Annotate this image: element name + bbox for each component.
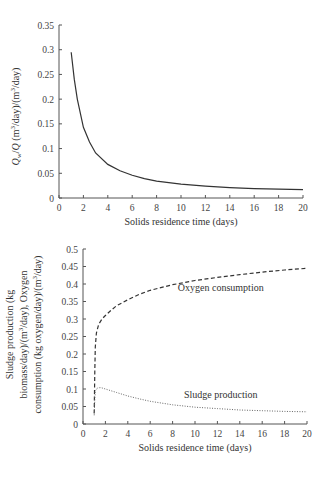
y-tick-label: 0.05 [37, 169, 54, 179]
y-tick-label: 0.4 [66, 280, 78, 290]
x-tick-label: 18 [280, 429, 290, 439]
y-tick-label: 0.1 [42, 144, 54, 154]
y-tick-label: 0.15 [37, 119, 54, 129]
y-tick-label: 0 [73, 420, 78, 430]
x-tick-label: 0 [81, 429, 86, 439]
x-tick-label: 4 [105, 203, 110, 213]
x-tick-label: 16 [249, 203, 259, 213]
y-axis-title-line: Sludge production (kg [4, 290, 16, 379]
annotation-sludge-production: Sludge production [184, 389, 258, 400]
x-tick-label: 2 [81, 203, 86, 213]
x-tick-label: 0 [57, 203, 62, 213]
y-tick-label: 0.2 [42, 95, 54, 105]
y-tick-label: 0.25 [37, 70, 54, 80]
x-axis-title: Solids residence time (days) [138, 442, 251, 454]
y-tick-label: 0.3 [66, 315, 78, 325]
chart-top-qw-q: 0246810121416182000.050.10.150.20.250.30… [9, 21, 308, 229]
x-tick-label: 14 [225, 203, 235, 213]
chart-bottom-sludge-oxygen: 0246810121416182000.050.10.150.20.250.30… [4, 245, 312, 455]
y-tick-label: 0.15 [61, 367, 78, 377]
y-tick-label: 0.1 [66, 385, 78, 395]
y-tick-label: 0.5 [66, 245, 78, 255]
x-tick-label: 14 [235, 429, 245, 439]
x-tick-label: 10 [190, 429, 200, 439]
x-tick-label: 16 [257, 429, 267, 439]
y-tick-label: 0.05 [61, 402, 78, 412]
y-tick-label: 0.45 [61, 262, 78, 272]
y-axis-title-line: consumption (kg oxygen/day)/(m3/day) [31, 256, 44, 414]
x-tick-label: 20 [298, 203, 308, 213]
y-tick-label: 0.25 [61, 332, 78, 342]
x-tick-label: 6 [148, 429, 153, 439]
y-tick-label: 0 [49, 194, 54, 204]
figure: 0246810121416182000.050.10.150.20.250.30… [0, 0, 328, 478]
series-qw-q [71, 52, 303, 189]
y-tick-label: 0.35 [61, 297, 78, 307]
x-tick-label: 4 [125, 429, 130, 439]
y-tick-label: 0.35 [37, 21, 54, 31]
x-axis-title: Solids residence time (days) [124, 216, 237, 228]
x-tick-label: 12 [201, 203, 211, 213]
annotation-oxygen-consumption: Oxygen consumption [178, 282, 264, 293]
y-tick-label: 0.2 [66, 350, 78, 360]
x-tick-label: 8 [154, 203, 159, 213]
x-tick-label: 20 [302, 429, 312, 439]
y-axis-title: Qw/Q (m3/day)/(m3/day) [9, 68, 23, 166]
y-axis-title-line: biomass/day)/(m3/day), Oxygen [17, 271, 30, 399]
x-tick-label: 10 [176, 203, 186, 213]
x-tick-label: 18 [274, 203, 284, 213]
x-tick-label: 2 [103, 429, 108, 439]
x-tick-label: 8 [170, 429, 175, 439]
y-tick-label: 0.3 [42, 45, 54, 55]
x-tick-label: 12 [213, 429, 223, 439]
x-tick-label: 6 [130, 203, 135, 213]
